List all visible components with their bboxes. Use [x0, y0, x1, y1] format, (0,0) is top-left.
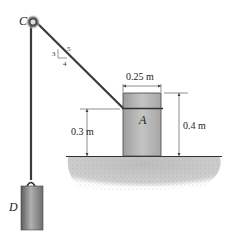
- svg-text:0.4 m: 0.4 m: [183, 120, 206, 131]
- weight-label: D: [8, 200, 18, 214]
- pulley-c: C: [19, 14, 40, 29]
- svg-text:5: 5: [67, 45, 71, 53]
- svg-text:0.25 m: 0.25 m: [126, 71, 154, 82]
- block-label: A: [138, 113, 147, 127]
- svg-text:0.3 m: 0.3 m: [71, 126, 94, 137]
- svg-text:4: 4: [63, 60, 67, 68]
- rope-inclined: [34, 20, 123, 108]
- dimension-attach-height: 0.3 m: [71, 109, 120, 156]
- dimension-block-width: 0.25 m: [123, 71, 161, 92]
- weight-d: D: [8, 183, 43, 231]
- dimension-block-height: 0.4 m: [164, 93, 206, 156]
- ground: [66, 157, 222, 191]
- pulley-label: C: [19, 14, 28, 28]
- svg-text:3: 3: [52, 50, 56, 58]
- block-a: A: [122, 93, 163, 156]
- diagram-canvas: A C 3 4 5 0.25 m 0.4 m 0.3 m: [0, 0, 229, 243]
